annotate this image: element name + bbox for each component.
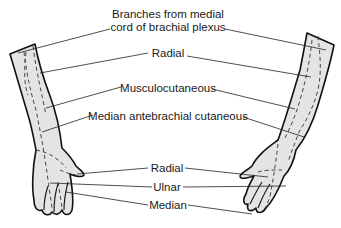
label-radial-hand: Radial — [151, 162, 184, 175]
left-arm — [10, 44, 84, 215]
label-median-antebrachial-cutaneous: Median antebrachial cutaneous — [88, 110, 248, 123]
label-musculocutaneous: Musculocutaneous — [120, 82, 216, 95]
label-medial-cord-line2: cord of brachial plexus — [110, 21, 225, 34]
label-medial-cord-branches: Branches from medial cord of brachial pl… — [110, 8, 225, 34]
label-median: Median — [149, 199, 187, 212]
label-medial-cord-line1: Branches from medial — [110, 8, 225, 21]
label-radial-upper: Radial — [152, 47, 185, 60]
diagram-stage: Branches from medial cord of brachial pl… — [0, 0, 341, 228]
right-arm — [240, 33, 334, 213]
label-ulnar: Ulnar — [153, 181, 180, 194]
